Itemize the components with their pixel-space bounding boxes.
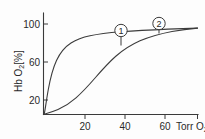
y-axis-title-main: Hb O	[13, 68, 24, 92]
series-marker-1[interactable]: 1	[115, 24, 127, 45]
y-tick-label-20: 20	[29, 95, 41, 106]
x-axis-title-sub: 2	[204, 126, 205, 133]
x-axis-title-main: Torr O	[176, 121, 204, 132]
marker-2-label: 2	[156, 19, 161, 29]
oxygen-dissociation-chart: 100 60 20 20 40 60 Torr O2 Hb O2[%] 1 2	[0, 0, 205, 139]
series-marker-2[interactable]: 2	[153, 17, 165, 33]
x-tick-label-40: 40	[119, 121, 131, 132]
y-tick-label-60: 60	[29, 57, 41, 68]
x-tick-label-20: 20	[79, 121, 91, 132]
y-axis-title-unit: [%]	[13, 50, 24, 65]
x-axis-title: Torr O2	[176, 121, 205, 133]
y-tick-label-100: 100	[23, 19, 40, 30]
marker-1-label: 1	[118, 26, 123, 36]
chart-plot-area: 100 60 20 20 40 60 Torr O2 Hb O2[%] 1 2	[0, 0, 205, 139]
x-tick-label-60: 60	[159, 121, 171, 132]
y-axis-title: Hb O2[%]	[13, 50, 25, 92]
